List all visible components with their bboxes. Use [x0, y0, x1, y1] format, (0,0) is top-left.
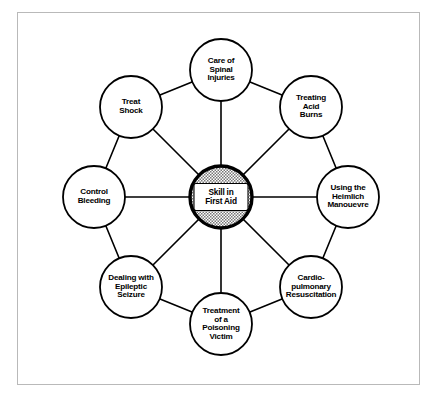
chord-control-bleeding-to-treat-shock — [105, 135, 119, 170]
spoke-dealing-with-epileptic-seizure — [152, 218, 200, 266]
node-circle-care-of-spinal-injuries[interactable] — [190, 39, 252, 101]
chord-treatment-of-a-poisoning-victim-to-dealing-with-epileptic-seizure — [159, 298, 194, 312]
chord-using-the-heimlich-manouevre-to-cardio-pulmonary-resuscitation — [322, 225, 336, 260]
node-circle-treatment-of-a-poisoning-victim[interactable] — [190, 293, 252, 355]
hub-label-box — [194, 184, 248, 211]
spoke-cardio-pulmonary-resuscitation — [242, 218, 290, 266]
node-circle-control-bleeding[interactable] — [63, 166, 125, 228]
hub-group — [190, 166, 252, 228]
diagram-canvas — [0, 0, 441, 399]
node-circle-treat-shock[interactable] — [100, 76, 162, 138]
node-circle-dealing-with-epileptic-seizure[interactable] — [100, 256, 162, 318]
chord-care-of-spinal-injuries-to-treating-acid-burns — [249, 81, 284, 95]
node-circle-using-the-heimlich-manouevre[interactable] — [317, 166, 379, 228]
node-circle-cardio-pulmonary-resuscitation[interactable] — [280, 256, 342, 318]
chord-treating-acid-burns-to-using-the-heimlich-manouevre — [322, 135, 336, 170]
spoke-treating-acid-burns — [242, 128, 290, 176]
chord-dealing-with-epileptic-seizure-to-control-bleeding — [105, 225, 119, 260]
spoke-treat-shock — [152, 128, 200, 176]
node-circle-treating-acid-burns[interactable] — [280, 76, 342, 138]
chord-treat-shock-to-care-of-spinal-injuries — [159, 81, 194, 95]
chord-cardio-pulmonary-resuscitation-to-treatment-of-a-poisoning-victim — [249, 298, 284, 312]
